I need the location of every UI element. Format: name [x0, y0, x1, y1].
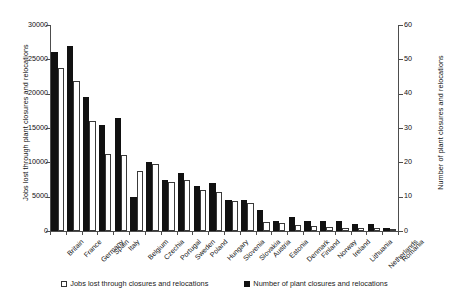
legend-item: Number of plant closures and relocations: [244, 279, 387, 288]
bar-group: [113, 25, 129, 231]
y-axis-left-tickmark: [46, 59, 50, 60]
bar-jobs-lost: [89, 121, 95, 231]
y-axis-left-ticks: 050001000015000200002500030000: [16, 0, 48, 298]
bar-jobs-lost: [263, 222, 269, 231]
x-axis-tickmark: [82, 231, 83, 235]
x-axis-tickmark: [335, 231, 336, 235]
bar-group: [303, 25, 319, 231]
bar-group: [50, 25, 66, 231]
y-axis-right-title: Number of plant closures and relocations: [436, 28, 445, 218]
y-axis-right-tick-label: 10: [404, 192, 432, 200]
y-axis-left-tickmark: [46, 128, 50, 129]
y-axis-right-tick-label: 30: [404, 124, 432, 132]
y-axis-right-tick-label: 0: [404, 227, 432, 235]
x-axis-tickmark: [287, 231, 288, 235]
y-axis-left-tick-label: 0: [18, 227, 48, 235]
bar-group: [382, 25, 398, 231]
x-axis-tickmark: [50, 231, 51, 235]
bar-jobs-lost: [295, 225, 301, 231]
legend-label: Number of plant closures and relocations: [253, 279, 387, 288]
y-axis-left-tickmark: [46, 25, 50, 26]
bar-group: [145, 25, 161, 231]
bar-jobs-lost: [168, 182, 174, 231]
y-axis-right-tick-label: 50: [404, 55, 432, 63]
y-axis-right-tickmark: [399, 59, 403, 60]
x-axis-tickmark: [351, 231, 352, 235]
bar-jobs-lost: [358, 228, 364, 231]
bar-jobs-lost: [152, 164, 158, 231]
bar-jobs-lost: [311, 226, 317, 231]
bar-group: [208, 25, 224, 231]
y-axis-right-tick-label: 40: [404, 89, 432, 97]
bar-jobs-lost: [247, 203, 253, 231]
y-axis-left-tickmark: [46, 94, 50, 95]
y-axis-right-tick-label: 20: [404, 158, 432, 166]
y-axis-right-tickmark: [399, 197, 403, 198]
x-axis-label-italy: Italy: [127, 238, 141, 252]
bar-jobs-lost: [73, 81, 79, 231]
open-square-icon: [61, 281, 67, 287]
bar-group: [97, 25, 113, 231]
bar-group: [366, 25, 382, 231]
bar-jobs-lost: [105, 154, 111, 231]
y-axis-left-tick-label: 30000: [18, 21, 48, 29]
bar-jobs-lost: [137, 171, 143, 231]
x-axis-tickmark: [224, 231, 225, 235]
bar-chart: Jobs lost through plant closures and rel…: [0, 0, 449, 298]
x-axis-tickmark: [208, 231, 209, 235]
x-axis-label-lithuania: Lithuania: [369, 238, 394, 263]
chart-legend: Jobs lost through closures and relocatio…: [0, 279, 449, 288]
x-axis-tickmark: [97, 231, 98, 235]
x-axis-tickmark: [66, 231, 67, 235]
bar-jobs-lost: [279, 223, 285, 231]
y-axis-right-tickmark: [399, 231, 403, 232]
bar-jobs-lost: [121, 155, 127, 231]
bar-group: [351, 25, 367, 231]
y-axis-right-tickmark: [399, 162, 403, 163]
y-axis-left-tick-label: 25000: [18, 55, 48, 63]
bar-group: [256, 25, 272, 231]
x-axis-tickmark: [256, 231, 257, 235]
y-axis-right-tickmark: [399, 128, 403, 129]
y-axis-left-tick-label: 20000: [18, 89, 48, 97]
bar-group: [224, 25, 240, 231]
x-axis-tickmark: [192, 231, 193, 235]
bar-jobs-lost: [326, 227, 332, 231]
bar-group: [335, 25, 351, 231]
x-axis-tickmark: [129, 231, 130, 235]
legend-label: Jobs lost through closures and relocatio…: [70, 279, 208, 288]
bar-jobs-lost: [390, 229, 396, 231]
x-axis-tickmark: [145, 231, 146, 235]
bar-jobs-lost: [184, 180, 190, 232]
y-axis-right-tick-label: 60: [404, 21, 432, 29]
bar-jobs-lost: [232, 201, 238, 231]
y-axis-left-tick-label: 10000: [18, 158, 48, 166]
x-axis-tickmark: [303, 231, 304, 235]
bar-jobs-lost: [58, 68, 64, 231]
y-axis-left-tick-label: 5000: [18, 192, 48, 200]
x-axis-tickmark: [398, 231, 399, 235]
y-axis-left-tickmark: [46, 197, 50, 198]
legend-item: Jobs lost through closures and relocatio…: [61, 279, 208, 288]
bar-jobs-lost: [374, 228, 380, 231]
bar-group: [66, 25, 82, 231]
x-axis-tickmark: [319, 231, 320, 235]
bar-jobs-lost: [216, 192, 222, 231]
x-axis-tickmark: [271, 231, 272, 235]
x-axis-label-britain: Britain: [66, 238, 85, 257]
x-axis-label-france: France: [82, 238, 102, 258]
bar-group: [129, 25, 145, 231]
y-axis-left-tickmark: [46, 162, 50, 163]
y-axis-left-tick-label: 15000: [18, 124, 48, 132]
bar-group: [161, 25, 177, 231]
bar-group: [177, 25, 193, 231]
y-axis-right-tickmark: [399, 25, 403, 26]
bar-group: [319, 25, 335, 231]
bar-group: [240, 25, 256, 231]
bar-group: [192, 25, 208, 231]
plot-area: [50, 25, 398, 231]
x-axis-tickmark: [177, 231, 178, 235]
x-axis-tickmark: [240, 231, 241, 235]
y-axis-right-tickmark: [399, 94, 403, 95]
bar-group: [271, 25, 287, 231]
